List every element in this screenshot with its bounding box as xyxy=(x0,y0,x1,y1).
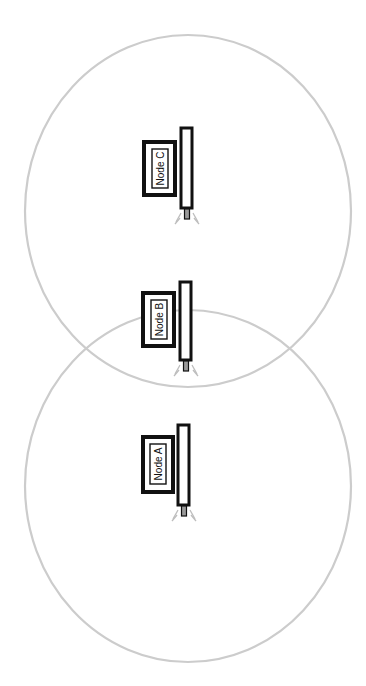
node-b: Node B xyxy=(143,282,198,376)
node-b-label: Node B xyxy=(154,302,165,336)
node-a: Node A xyxy=(143,425,196,521)
node-b-antenna-icon xyxy=(180,282,191,360)
node-c-antenna-icon xyxy=(181,128,192,208)
node-a-connector-icon xyxy=(182,506,187,516)
node-c-connector-icon xyxy=(185,209,190,219)
node-b-connector-icon xyxy=(184,361,189,371)
node-a-antenna-icon xyxy=(178,425,189,505)
node-c: Node C xyxy=(144,128,199,224)
node-c-label: Node C xyxy=(155,152,166,186)
node-a-label: Node A xyxy=(153,447,164,480)
wireless-range-diagram: Node C Node B Node A xyxy=(0,0,366,686)
